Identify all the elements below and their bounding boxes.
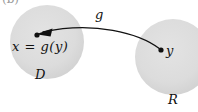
figure-tag: (b) bbox=[2, 0, 19, 5]
source-point-dot bbox=[158, 47, 163, 52]
image-point-label: x = g(y) bbox=[12, 40, 68, 53]
image-point-dot bbox=[34, 32, 39, 37]
function-mapping-diagram: (b) g x = g(y) D y R bbox=[0, 0, 198, 112]
mapping-arrow-label: g bbox=[95, 8, 103, 21]
source-point-label: y bbox=[166, 44, 173, 57]
domain-region-label: D bbox=[35, 68, 45, 81]
range-region-label: R bbox=[168, 93, 178, 106]
